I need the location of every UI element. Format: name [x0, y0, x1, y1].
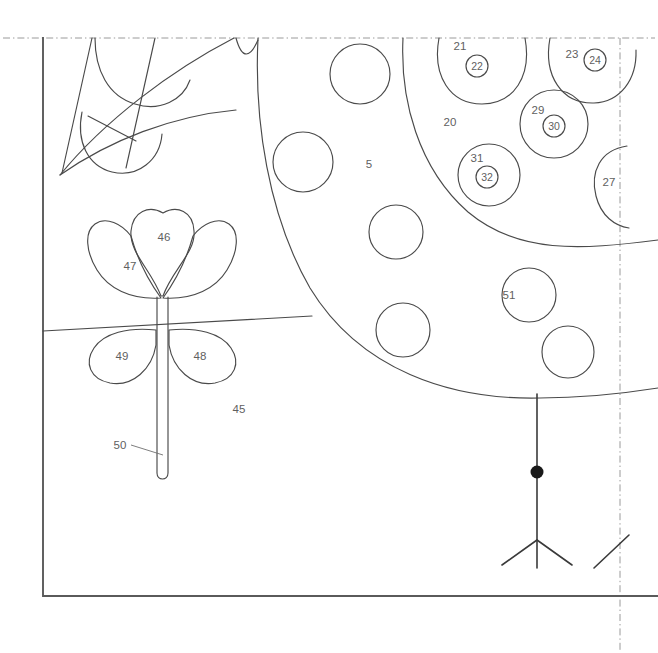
- canopy-leaf-circles: 51: [273, 44, 594, 378]
- tree-canopy-outer: [236, 38, 658, 398]
- drawing-frame: [43, 38, 658, 596]
- canopy-top-notch: [236, 38, 258, 54]
- root-right: [537, 540, 572, 565]
- label-29: 29: [532, 104, 545, 116]
- technical-line-drawing: 51 21 22 23 24 29 30 31 32 27 5 20: [0, 0, 658, 653]
- foliage-cluster-top-left: [60, 38, 236, 175]
- label-49: 49: [116, 350, 129, 362]
- horizon-line: [43, 316, 312, 331]
- flower-group: 46 47 48 49 50: [88, 210, 237, 479]
- blob-group-21: 21 22: [437, 38, 526, 104]
- label-27: 27: [603, 176, 616, 188]
- leaf-circle-d: [376, 303, 430, 357]
- tree-trunk-group: [502, 394, 629, 568]
- blob-group-31: 31 32: [458, 144, 520, 206]
- foliage-leaf-edge-lower: [60, 110, 236, 175]
- frame-border: [43, 38, 658, 596]
- label-31: 31: [471, 152, 484, 164]
- label-20: 20: [444, 116, 457, 128]
- leaf-circle-e: [542, 326, 594, 378]
- label-45: 45: [233, 403, 246, 415]
- leaf-circle-a: [330, 44, 390, 104]
- blob-group-23: 23 24: [549, 38, 636, 103]
- leaf-circle-c: [369, 205, 423, 259]
- foliage-lobe-lower: [80, 112, 162, 173]
- label-32: 32: [481, 171, 493, 183]
- leaf-circle-b: [273, 132, 333, 192]
- canopy-outline: [257, 38, 658, 398]
- trunk-node-dot: [531, 466, 544, 479]
- label-23: 23: [566, 48, 579, 60]
- petal-right: [163, 221, 236, 298]
- label-5: 5: [366, 158, 372, 170]
- label-47: 47: [124, 260, 137, 272]
- petal-center: [131, 210, 194, 296]
- patent-figure-canvas: 51 21 22 23 24 29 30 31 32 27 5 20: [0, 0, 658, 653]
- label-22: 22: [471, 60, 483, 72]
- label-48: 48: [194, 350, 207, 362]
- foliage-stem-left: [62, 38, 92, 173]
- label-24: 24: [589, 54, 601, 66]
- root-left: [502, 540, 537, 565]
- root-far-right: [594, 535, 629, 568]
- label-30: 30: [548, 120, 560, 132]
- label-46: 46: [158, 231, 171, 243]
- label-50: 50: [114, 439, 127, 451]
- blob-group-27: 27: [594, 146, 629, 228]
- leader-line-50: [131, 445, 163, 455]
- label-21: 21: [454, 40, 467, 52]
- blob-group-29: 29 30: [520, 90, 588, 158]
- label-51: 51: [503, 289, 516, 301]
